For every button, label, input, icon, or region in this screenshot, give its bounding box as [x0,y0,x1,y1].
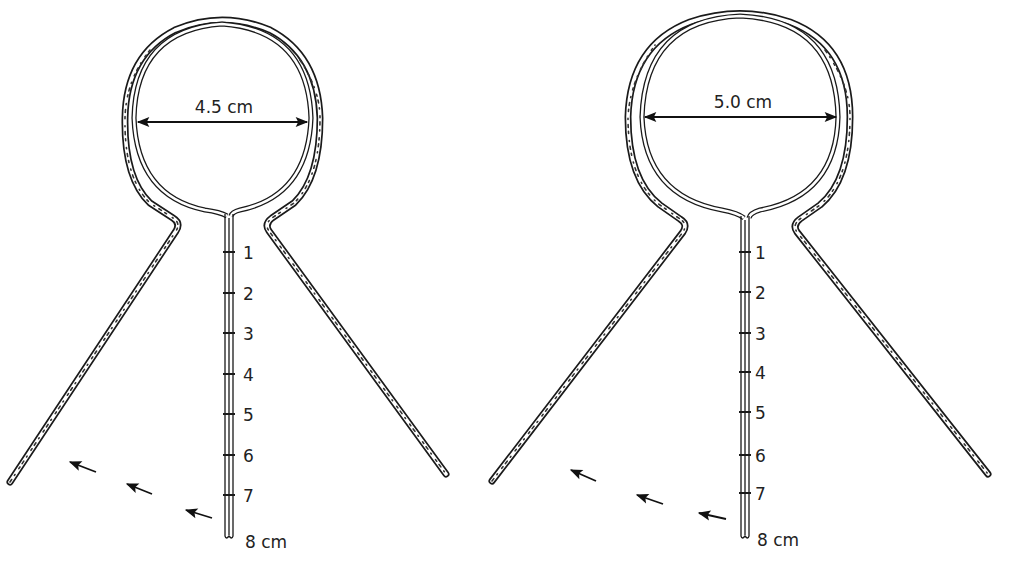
scale-label-5: 5 [243,405,254,425]
figure-small-loop: 1 2 3 4 5 6 7 8 cm 4.5 cm [10,20,446,552]
inner-ring [134,24,311,216]
figure-large-loop: 1 2 3 4 5 6 7 8 cm 5.0 cm [492,14,988,551]
diagram-canvas: 1 2 3 4 5 6 7 8 cm 4.5 cm [0,0,1010,562]
scale-label-1: 1 [755,243,766,263]
direction-arrows [70,462,212,518]
scale-label-5: 5 [755,403,766,423]
arrow-icon [186,510,212,518]
outer-wire [492,14,988,482]
scale-label-7: 7 [243,486,254,506]
scale-label-8cm: 8 cm [245,532,287,552]
arrow-icon [699,513,726,519]
direction-arrows [571,470,726,519]
scale-label-6: 6 [243,446,254,466]
scale-label-3: 3 [755,324,766,344]
arrow-icon [571,470,596,481]
scale-label-2: 2 [755,283,766,303]
measuring-stem [223,214,235,538]
diameter-label: 5.0 cm [714,92,772,112]
diameter-label: 4.5 cm [195,97,253,117]
scale-label-3: 3 [243,324,254,344]
arrow-icon [127,484,152,494]
arrow-icon [637,495,663,504]
scale-label-8cm: 8 cm [757,530,799,550]
scale-label-4: 4 [243,365,254,385]
scale-label-4: 4 [755,363,766,383]
measuring-stem [739,216,751,538]
scale-label-7: 7 [755,484,766,504]
scale-label-1: 1 [243,243,254,263]
scale-label-2: 2 [243,284,254,304]
arrow-icon [70,462,96,472]
scale-label-6: 6 [755,446,766,466]
